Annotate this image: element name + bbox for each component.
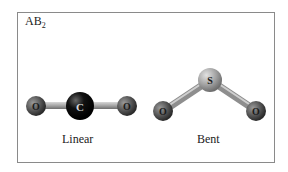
linear-molecule: O O C [26,92,137,120]
atom-label-o: O [252,106,260,117]
bent-molecule: O O S [153,68,266,121]
atom-label-c: C [76,101,84,113]
atom-label-o: O [159,106,167,117]
bent-label: Bent [197,132,220,147]
atom-label-o: O [123,101,131,112]
atom-label-o: O [32,101,40,112]
linear-label: Linear [62,132,93,147]
atom-label-s: S [207,75,213,86]
molecule-illustrations: O O C O O S [0,0,288,172]
